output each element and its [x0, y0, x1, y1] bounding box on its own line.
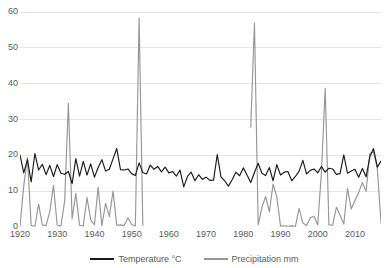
series-layer: [20, 12, 381, 227]
legend-entry-precipitation[interactable]: Precipitation mm: [204, 254, 299, 264]
x-tick-label-2000: 2000: [308, 229, 328, 239]
y-tick-label-30: 30: [0, 115, 18, 124]
legend-label: Precipitation mm: [232, 254, 299, 264]
legend-swatch-icon: [204, 258, 228, 260]
x-tick-label-1960: 1960: [159, 229, 179, 239]
climate-line-chart: 0102030405060 19201930194019501960197019…: [0, 0, 389, 268]
gridlines: [20, 12, 381, 227]
x-tick-label-1970: 1970: [196, 229, 216, 239]
legend-label: Temperature °C: [118, 254, 181, 264]
plot-area: [20, 12, 381, 227]
x-tick-label-1930: 1930: [47, 229, 67, 239]
x-tick-label-1980: 1980: [233, 229, 253, 239]
y-tick-label-40: 40: [0, 79, 18, 88]
precipitation-line: [20, 18, 381, 226]
legend-entry-temperature[interactable]: Temperature °C: [90, 254, 181, 264]
x-tick-label-1990: 1990: [270, 229, 290, 239]
legend-swatch-icon: [90, 258, 114, 260]
y-axis: 0102030405060: [0, 0, 18, 240]
y-tick-label-60: 60: [0, 7, 18, 16]
x-tick-label-1920: 1920: [10, 229, 30, 239]
x-axis: 1920193019401950196019701980199020002010: [20, 229, 381, 243]
y-tick-label-50: 50: [0, 43, 18, 52]
y-tick-label-10: 10: [0, 186, 18, 195]
x-tick-label-1940: 1940: [84, 229, 104, 239]
chart-legend: Temperature °CPrecipitation mm: [0, 252, 389, 266]
x-tick-label-1950: 1950: [122, 229, 142, 239]
y-tick-label-20: 20: [0, 150, 18, 159]
x-tick-label-2010: 2010: [345, 229, 365, 239]
